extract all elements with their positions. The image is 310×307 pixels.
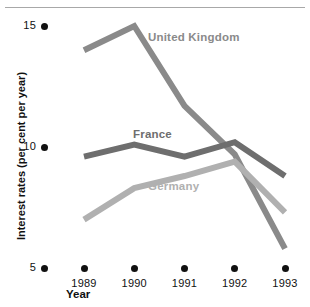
- y-axis-title: Interest rates (per cent per year): [15, 71, 27, 241]
- x-tick-dot: [131, 265, 138, 272]
- x-tick-label: 1991: [162, 277, 208, 289]
- series-label-united-kingdom: United Kingdom: [148, 31, 240, 43]
- x-tick-dot: [181, 265, 188, 272]
- y-tick-label: 15: [8, 19, 36, 31]
- y-tick-dot: [41, 265, 48, 272]
- y-tick-dot: [41, 144, 48, 151]
- x-tick-dot: [231, 265, 238, 272]
- y-tick-dot: [41, 23, 48, 30]
- x-tick-label: 1992: [212, 277, 258, 289]
- series-line-france: [84, 142, 285, 176]
- series-label-germany: Germany: [148, 180, 199, 192]
- x-axis-title: Year: [66, 288, 90, 300]
- interest-rates-line-chart: 15105 19891990199119921993 Interest rate…: [0, 0, 310, 307]
- series-line-united-kingdom: [84, 26, 285, 249]
- y-tick-label: 5: [8, 261, 36, 273]
- x-tick-label: 1993: [262, 277, 308, 289]
- x-tick-dot: [81, 265, 88, 272]
- plot-area: [0, 0, 310, 307]
- series-label-france: France: [133, 128, 172, 140]
- x-tick-dot: [282, 265, 289, 272]
- x-tick-label: 1990: [111, 277, 157, 289]
